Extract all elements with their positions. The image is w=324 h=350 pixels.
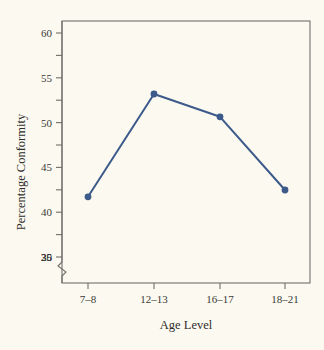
x-tick-label-7-8: 7–8 xyxy=(80,293,97,305)
y-axis-title: Percentage Conformity xyxy=(14,113,28,230)
plot-frame xyxy=(62,21,310,283)
chart-figure: 60 55 50 45 40 35 30 25 7–8 12–13 16–17 … xyxy=(0,0,324,350)
y-tick-label-60: 60 xyxy=(41,27,53,39)
y-axis-spine xyxy=(58,21,66,283)
data-point-18-21 xyxy=(282,187,289,194)
x-tick-label-12-13: 12–13 xyxy=(140,293,168,305)
data-point-7-8 xyxy=(85,193,92,200)
data-point-12-13 xyxy=(151,91,158,98)
x-tick-label-18-21: 18–21 xyxy=(271,293,299,305)
line-chart: 60 55 50 45 40 35 30 25 7–8 12–13 16–17 … xyxy=(0,0,324,350)
x-axis-ticks xyxy=(88,283,285,289)
y-tick-label-25: 25 xyxy=(41,251,53,263)
x-axis-title: Age Level xyxy=(160,318,213,332)
x-tick-label-16-17: 16–17 xyxy=(206,293,234,305)
y-tick-label-40: 40 xyxy=(41,206,53,218)
y-tick-label-50: 50 xyxy=(41,117,53,129)
y-tick-label-45: 45 xyxy=(41,161,53,173)
y-axis-ticks xyxy=(56,33,62,257)
data-line xyxy=(88,94,285,197)
data-point-markers xyxy=(85,91,289,201)
y-tick-label-55: 55 xyxy=(41,72,53,84)
data-point-16-17 xyxy=(217,113,224,120)
